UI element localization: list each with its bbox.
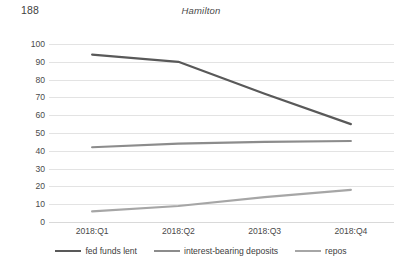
y-axis-tick-label: 20: [35, 181, 45, 191]
legend-label: interest-bearing deposits: [184, 246, 278, 256]
legend-item[interactable]: interest-bearing deposits: [154, 246, 278, 256]
legend-line-icon: [154, 250, 180, 252]
y-axis-tick-label: 80: [35, 75, 45, 85]
gridline: [49, 222, 394, 223]
legend-line-icon: [295, 250, 321, 252]
legend-item[interactable]: repos: [295, 246, 347, 256]
y-axis-tick-label: 0: [40, 217, 45, 227]
x-axis-tick-label: 2018:Q1: [76, 226, 109, 236]
y-axis: 0102030405060708090100: [18, 44, 45, 224]
x-axis: 2018:Q12018:Q22018:Q32018:Q4: [49, 226, 394, 240]
y-axis-tick-label: 90: [35, 57, 45, 67]
x-axis-tick-label: 2018:Q3: [248, 226, 281, 236]
y-axis-tick-label: 100: [31, 39, 45, 49]
series-line: [92, 55, 351, 124]
y-axis-tick-label: 50: [35, 128, 45, 138]
legend-item[interactable]: fed funds lent: [55, 246, 137, 256]
series-line: [92, 141, 351, 147]
legend-label: fed funds lent: [85, 246, 137, 256]
series-line: [92, 190, 351, 211]
y-axis-tick-label: 30: [35, 164, 45, 174]
y-axis-tick-label: 10: [35, 199, 45, 209]
plot-area: 0102030405060708090100 2018:Q12018:Q2201…: [0, 0, 402, 267]
series-lines: [49, 44, 394, 222]
legend-line-icon: [55, 250, 81, 252]
legend-label: repos: [325, 246, 347, 256]
x-axis-tick-label: 2018:Q2: [162, 226, 195, 236]
chart-legend: fed funds lentinterest-bearing depositsr…: [0, 246, 402, 256]
x-axis-tick-label: 2018:Q4: [334, 226, 367, 236]
chart-page: 188 Hamilton 0102030405060708090100 2018…: [0, 0, 402, 267]
y-axis-tick-label: 40: [35, 146, 45, 156]
y-axis-tick-label: 70: [35, 92, 45, 102]
y-axis-tick-label: 60: [35, 110, 45, 120]
